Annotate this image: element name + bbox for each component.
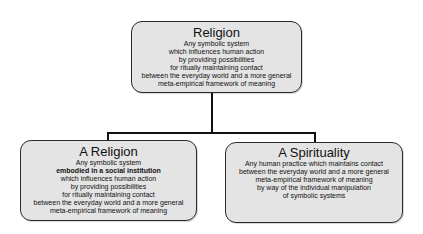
node-a-religion: A Religion Any symbolic system embodied … <box>20 140 197 221</box>
node-text-line: Any symbolic system <box>132 40 301 48</box>
node-text-line: which influences human action <box>21 175 196 183</box>
connector-stem <box>211 92 213 134</box>
node-a-spirituality: A Spirituality Any human practice which … <box>225 142 403 223</box>
node-text-line: which influences human action <box>132 48 301 56</box>
connector-branch-bar <box>107 132 316 134</box>
node-text-line: Any symbolic system <box>21 159 196 167</box>
node-text-line: by providing possibilities <box>21 183 196 191</box>
node-text-line: between the everyday world and a more ge… <box>226 168 402 176</box>
node-text-line: by way of the individual manipulation <box>226 184 402 192</box>
node-text-line: Any human practice which maintains conta… <box>226 160 402 168</box>
node-title: A Spirituality <box>226 146 402 160</box>
node-text-line: by providing possibilities <box>132 56 301 64</box>
node-text-line: for ritually maintaining contact <box>132 64 301 72</box>
node-text-line: meta-empirical framework of meaning <box>21 207 196 215</box>
node-text-line: between the everyday world and a more ge… <box>132 72 301 80</box>
node-text-line: meta-empirical framework of meaning <box>226 176 402 184</box>
node-text-line-emphasis: embodied in a social institution <box>21 167 196 175</box>
node-text-line: between the everyday world and a more ge… <box>21 199 196 207</box>
node-text-line: of symbolic systems <box>226 192 402 200</box>
node-religion: Religion Any symbolic system which influ… <box>131 21 302 93</box>
node-title: Religion <box>132 26 301 40</box>
node-text-line: meta-empirical framework of meaning <box>132 80 301 88</box>
node-title: A Religion <box>21 145 196 159</box>
node-text-line: for ritually maintaining contact <box>21 191 196 199</box>
